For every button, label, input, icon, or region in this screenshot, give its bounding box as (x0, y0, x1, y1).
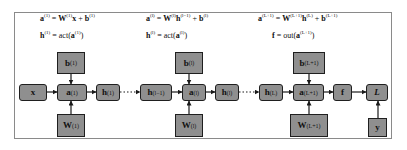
target-node-y: y (368, 118, 387, 137)
loss-node-L: L (366, 84, 388, 101)
weight-node-Wl: W(l) (175, 114, 203, 137)
hidden-node-h1: h(1) (96, 84, 120, 101)
bias-node-bL1: b(L+1) (293, 52, 325, 74)
hidden-node-h-l-minus-1: h(l−1) (140, 84, 172, 101)
hidden-node-hL: h(L) (259, 84, 283, 101)
output-node-f: f (333, 84, 352, 101)
hidden-node-hl: h(l) (215, 84, 239, 101)
bias-node-bl: b(l) (175, 52, 203, 74)
weight-node-WL1: W(L+1) (290, 114, 328, 137)
preactivation-node-aL1: a(L+1) (293, 84, 324, 101)
weight-node-W1: W(1) (57, 114, 85, 137)
preactivation-node-a1: a(1) (57, 84, 87, 101)
preactivation-node-al: a(l) (182, 84, 206, 101)
bias-node-b1: b(1) (57, 52, 85, 74)
input-node-x: x (19, 84, 47, 101)
